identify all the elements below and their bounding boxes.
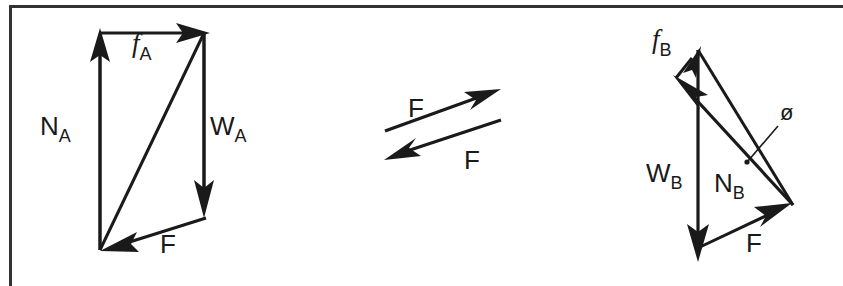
label-f-b: F (746, 228, 762, 258)
label-f-upper: F (408, 93, 424, 123)
label-f-lower: F (464, 145, 480, 175)
label-phi: ø (780, 100, 793, 125)
label-f-a: F (160, 229, 176, 259)
figure-container: NA fA WA F F F (0, 0, 843, 286)
force-diagram-svg: NA fA WA F F F (0, 0, 843, 286)
